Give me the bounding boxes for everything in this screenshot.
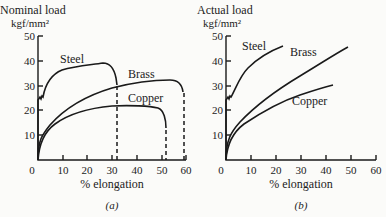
panel-a-copper-label: Copper	[128, 91, 163, 105]
svg-text:50: 50	[212, 30, 224, 42]
svg-text:10: 10	[246, 164, 258, 176]
svg-text:0: 0	[218, 164, 224, 176]
svg-text:20: 20	[271, 164, 283, 176]
panel-a-yunit: kgf/mm²	[11, 17, 50, 29]
panel-a-xlabel: % elongation	[80, 177, 144, 191]
svg-text:60: 60	[371, 164, 383, 176]
svg-text:60: 60	[181, 164, 193, 176]
panel-b-caption: (b)	[295, 199, 308, 212]
svg-text:30: 30	[107, 164, 119, 176]
panel-b-xlabel: % elongation	[269, 177, 333, 191]
panel-b-ytick-labels: 50 40 30 20 10	[212, 30, 224, 141]
svg-text:40: 40	[132, 164, 144, 176]
panel-b-ylabel: Actual load	[197, 3, 253, 17]
svg-text:0: 0	[29, 164, 35, 176]
panel-b-copper-label: Copper	[292, 94, 327, 108]
figure: Nominal load kgf/mm² 50 40 30 20 10 0	[0, 0, 386, 217]
panel-a-steel-label: Steel	[60, 52, 85, 66]
panel-a-ylabel: Nominal load	[0, 3, 66, 17]
panel-b-brass-label: Brass	[290, 45, 317, 59]
panel-b-xticks	[251, 155, 376, 160]
svg-text:50: 50	[346, 164, 358, 176]
svg-text:20: 20	[82, 164, 94, 176]
panel-a: Nominal load kgf/mm² 50 40 30 20 10 0	[0, 3, 192, 212]
svg-text:40: 40	[321, 164, 333, 176]
svg-text:40: 40	[212, 55, 224, 67]
panel-a-xtick-labels: 0 10 20 30 40 50 60	[29, 164, 192, 176]
svg-text:30: 30	[296, 164, 308, 176]
panel-a-caption: (a)	[106, 199, 119, 212]
panel-a-steel-curve	[38, 63, 117, 160]
svg-text:10: 10	[212, 129, 224, 141]
svg-text:10: 10	[24, 129, 36, 141]
panel-b-brass-curve	[226, 47, 348, 160]
panel-b-steel-curve	[226, 46, 283, 160]
panel-a-brass-label: Brass	[128, 67, 155, 81]
svg-text:20: 20	[24, 104, 36, 116]
panel-a-copper-curve	[38, 106, 166, 160]
svg-text:50: 50	[157, 164, 169, 176]
svg-text:50: 50	[24, 30, 36, 42]
svg-text:40: 40	[24, 55, 36, 67]
svg-text:30: 30	[212, 80, 224, 92]
panel-a-ytick-labels: 50 40 30 20 10	[24, 30, 36, 141]
panel-b-steel-label: Steel	[242, 39, 267, 53]
svg-text:30: 30	[24, 80, 36, 92]
panel-b-xtick-labels: 0 10 20 30 40 50 60	[218, 164, 382, 176]
panel-a-xticks	[63, 155, 186, 160]
svg-text:10: 10	[58, 164, 70, 176]
panel-b: Actual load kgf/mm² 50 40 30 20 10 0	[197, 3, 382, 212]
panel-b-yunit: kgf/mm²	[203, 17, 242, 29]
svg-text:20: 20	[212, 104, 224, 116]
